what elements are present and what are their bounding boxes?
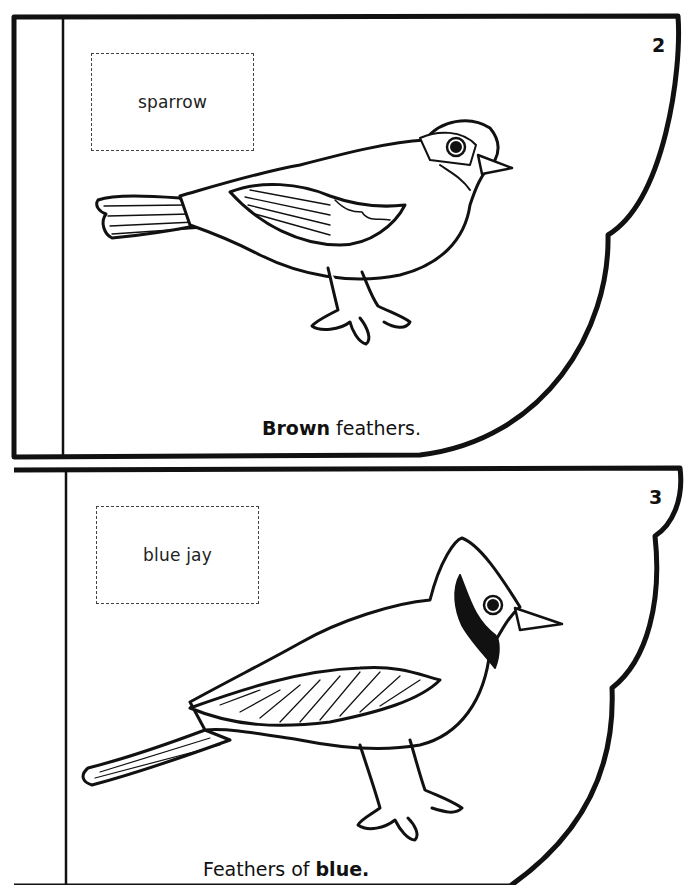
word-label-box: sparrow xyxy=(91,53,254,151)
sparrow-illustration xyxy=(97,121,512,344)
caption-text: Feathers of xyxy=(203,858,316,880)
word-label: blue jay xyxy=(143,545,212,565)
page-caption: Feathers of blue. xyxy=(203,858,369,880)
caption-bold-word: Brown xyxy=(262,417,330,439)
word-label: sparrow xyxy=(138,92,207,112)
caption-bold-word: blue. xyxy=(316,858,370,880)
caption-text: feathers. xyxy=(330,417,421,439)
page-number: 3 xyxy=(649,486,662,508)
page-caption: Brown feathers. xyxy=(262,417,421,439)
page-number: 2 xyxy=(652,34,665,56)
word-label-box: blue jay xyxy=(96,506,259,604)
